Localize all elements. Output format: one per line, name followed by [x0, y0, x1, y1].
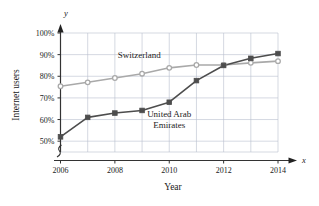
x-axis-arrowhead: [289, 157, 298, 163]
x-axis-variable-label: x: [301, 155, 306, 165]
series-label-united-arab-emirates-line2: Emirates: [153, 120, 185, 130]
data-point-marker: [85, 80, 90, 85]
data-point-marker: [194, 78, 199, 83]
series-label-switzerland: Switzerland: [118, 50, 161, 60]
series-label-united-arab-emirates: United Arab: [147, 109, 192, 119]
y-tick-label: 100%: [36, 29, 55, 38]
y-tick-label: 80%: [40, 72, 55, 81]
data-point-marker: [249, 56, 254, 61]
data-point-marker: [167, 100, 172, 105]
vertical-gridlines: [61, 33, 279, 152]
data-point-marker: [167, 66, 172, 71]
data-point-marker: [194, 63, 199, 68]
y-tick-label: 90%: [40, 51, 55, 60]
data-point-marker: [276, 51, 281, 56]
axes: [54, 24, 297, 164]
data-point-marker: [276, 59, 281, 64]
data-point-marker: [140, 71, 145, 76]
data-point-marker: [58, 135, 63, 140]
chart-canvas: 50%60%70%80%90%100% 20062008201020122014…: [0, 0, 319, 206]
data-point-marker: [140, 108, 145, 113]
x-axis-title: Year: [164, 182, 182, 192]
x-tick-label: 2008: [107, 166, 123, 175]
series-inline-labels: SwitzerlandUnited ArabEmirates: [118, 50, 192, 131]
data-point-marker: [113, 111, 118, 116]
internet-users-line-chart: 50%60%70%80%90%100% 20062008201020122014…: [0, 0, 319, 206]
data-point-marker: [221, 63, 226, 68]
x-tick-label: 2014: [270, 166, 286, 175]
x-tick-labels: 20062008201020122014: [53, 166, 287, 175]
y-tick-labels: 50%60%70%80%90%100%: [36, 29, 55, 146]
data-point-marker: [113, 76, 118, 81]
x-tick-label: 2012: [216, 166, 232, 175]
data-point-marker: [249, 61, 254, 66]
data-point-marker: [85, 115, 90, 120]
data-point-marker: [58, 84, 63, 89]
y-axis-title: Internet users: [11, 69, 21, 121]
y-axis-arrowhead: [57, 24, 63, 33]
y-tick-label: 50%: [40, 137, 55, 146]
x-tick-label: 2006: [53, 166, 69, 175]
y-axis-variable-label: y: [63, 8, 68, 18]
y-tick-label: 60%: [40, 116, 55, 125]
x-tick-label: 2010: [161, 166, 177, 175]
y-tick-label: 70%: [40, 94, 55, 103]
